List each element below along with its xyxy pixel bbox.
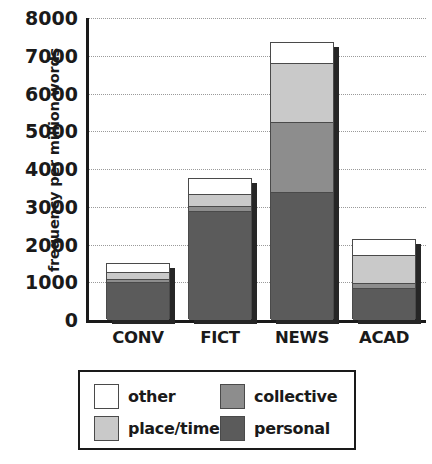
bar-stack[interactable] <box>270 42 334 319</box>
legend: othercollectiveplace/timepersonal <box>78 370 356 450</box>
gridline <box>89 207 426 209</box>
x-axis-tick-label-acad: ACAD <box>352 328 416 347</box>
bar-segment-collective[interactable] <box>271 122 333 192</box>
legend-item-personal[interactable]: personal <box>220 413 346 443</box>
bar-stack[interactable] <box>106 263 170 319</box>
bar-segment-place-time[interactable] <box>189 194 251 205</box>
legend-swatch <box>94 416 119 441</box>
y-axis-tick-label: 3000 <box>25 197 78 216</box>
y-axis-tick-label: 6000 <box>25 84 78 103</box>
legend-label: other <box>128 387 175 406</box>
y-axis-tick-label: 0 <box>65 311 78 330</box>
legend-label: personal <box>254 419 330 438</box>
bar-stack[interactable] <box>352 239 416 319</box>
bar-segment-place-time[interactable] <box>107 272 169 280</box>
legend-grid: othercollectiveplace/timepersonal <box>94 381 346 443</box>
legend-swatch <box>94 384 119 409</box>
y-axis-tick-label: 8000 <box>25 9 78 28</box>
gridline <box>89 18 426 20</box>
gridline <box>89 94 426 96</box>
legend-item-collective[interactable]: collective <box>220 381 346 411</box>
x-axis-tick-label-news: NEWS <box>270 328 334 347</box>
bar-segment-other[interactable] <box>271 43 333 64</box>
legend-swatch <box>220 416 245 441</box>
legend-label: place/time <box>128 419 220 438</box>
plot-area: 010002000300040005000600070008000 CONVFI… <box>86 18 426 322</box>
y-axis-tick-label: 1000 <box>25 273 78 292</box>
x-axis-tick-label-fict: FICT <box>188 328 252 347</box>
x-axis-tick-label-conv: CONV <box>106 328 170 347</box>
bar-segment-personal[interactable] <box>189 211 251 320</box>
legend-item-place-time[interactable]: place/time <box>94 413 220 443</box>
legend-swatch <box>220 384 245 409</box>
gridline <box>89 56 426 58</box>
y-axis-tick-label: 2000 <box>25 235 78 254</box>
bar-segment-personal[interactable] <box>107 282 169 320</box>
bar-segment-personal[interactable] <box>353 288 415 320</box>
bar-segment-personal[interactable] <box>271 192 333 320</box>
y-axis-tick-label: 7000 <box>25 46 78 65</box>
bar-segment-other[interactable] <box>353 240 415 255</box>
legend-item-other[interactable]: other <box>94 381 220 411</box>
gridline <box>89 169 426 171</box>
bar-segment-other[interactable] <box>189 179 251 194</box>
stacked-bar-chart: frequency per million words 010002000300… <box>0 0 432 464</box>
bar-stack[interactable] <box>188 178 252 319</box>
y-axis-tick-label: 5000 <box>25 122 78 141</box>
bar-segment-place-time[interactable] <box>271 63 333 122</box>
gridline <box>89 131 426 133</box>
legend-label: collective <box>254 387 337 406</box>
bar-segment-other[interactable] <box>107 264 169 272</box>
bar-segment-place-time[interactable] <box>353 255 415 283</box>
y-axis-tick-label: 4000 <box>25 160 78 179</box>
